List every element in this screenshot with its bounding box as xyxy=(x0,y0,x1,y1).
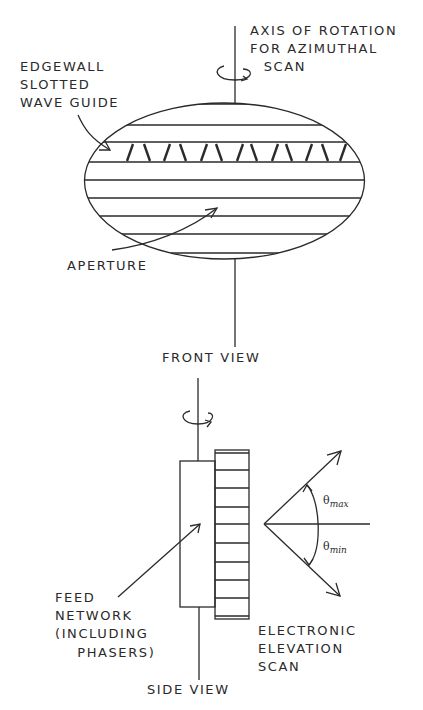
axis-label-line1: AXIS OF ROTATION xyxy=(250,22,397,40)
waveguide-slots xyxy=(127,144,346,161)
scan-label-line2: ELEVATION xyxy=(258,640,344,658)
feed-label-line4: PHASERS) xyxy=(60,644,155,662)
front-view-title: FRONT VIEW xyxy=(162,349,260,367)
theta-max-symbol: θ xyxy=(323,494,330,507)
axis-label-line3: SCAN xyxy=(258,58,306,76)
feed-label-line1: FEED xyxy=(55,589,95,607)
scan-label-line3: SCAN xyxy=(258,658,300,676)
beam-min xyxy=(264,524,340,596)
waveguide-label-line3: WAVE GUIDE xyxy=(20,94,119,112)
waveguide-label-line1: EDGEWALL xyxy=(20,58,105,76)
side-view-title: SIDE VIEW xyxy=(147,681,230,699)
front-view xyxy=(60,26,380,347)
waveguide-label-line2: SLOTTED xyxy=(20,76,90,94)
slotted-array xyxy=(215,450,249,619)
axis-label-line2: FOR AZIMUTHAL xyxy=(250,40,378,58)
aperture-leader-arrow xyxy=(112,208,217,250)
aperture-label: APERTURE xyxy=(67,257,148,275)
feed-label-line2: NETWORK xyxy=(55,607,133,625)
aperture-ellipse xyxy=(85,103,365,259)
theta-max-label: θmax xyxy=(323,494,349,509)
waveguide-leader-arrow xyxy=(78,115,110,150)
theta-min-subscript: min xyxy=(330,545,347,555)
scan-label-line1: ELECTRONIC xyxy=(258,622,357,640)
theta-max-subscript: max xyxy=(330,499,349,509)
elevation-scan-beams xyxy=(264,451,370,596)
feed-label-line3: (INCLUDING xyxy=(55,625,148,643)
feed-network-box xyxy=(180,461,215,607)
theta-min-label: θmin xyxy=(323,540,347,555)
theta-min-symbol: θ xyxy=(323,540,330,553)
beam-max xyxy=(264,451,341,524)
feed-leader-arrow xyxy=(118,524,200,597)
rotation-arrow-icon xyxy=(217,66,250,81)
